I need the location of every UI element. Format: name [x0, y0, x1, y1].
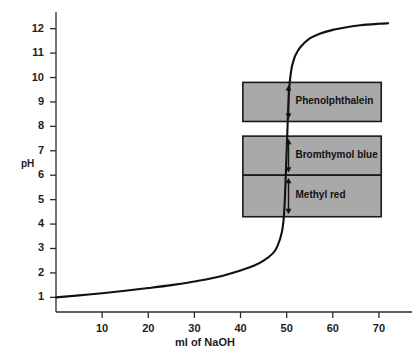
- x-tick-label-50: 50: [267, 322, 307, 334]
- y-tick-label-5: 5: [0, 193, 44, 205]
- y-tick-label-12: 12: [0, 22, 44, 34]
- y-axis-title: pH: [21, 158, 34, 169]
- x-tick-label-20: 20: [128, 322, 168, 334]
- x-tick-label-10: 10: [82, 322, 122, 334]
- x-tick-label-60: 60: [313, 322, 353, 334]
- titration-chart: 123456789101112 10203040506070 Phenolpht…: [0, 0, 416, 360]
- y-tick-label-9: 9: [0, 95, 44, 107]
- y-tick-label-1: 1: [0, 290, 44, 302]
- y-tick-label-6: 6: [0, 168, 44, 180]
- x-axis-title: ml of NaOH: [175, 336, 235, 348]
- y-tick-label-3: 3: [0, 241, 44, 253]
- y-tick-label-8: 8: [0, 119, 44, 131]
- x-tick-label-70: 70: [359, 322, 399, 334]
- x-tick-label-40: 40: [221, 322, 261, 334]
- y-tick-label-10: 10: [0, 71, 44, 83]
- chart-canvas: [0, 0, 416, 360]
- y-tick-label-7: 7: [0, 144, 44, 156]
- bromthymol-blue-band-label: Bromthymol blue: [296, 149, 378, 160]
- y-tick-label-4: 4: [0, 217, 44, 229]
- x-tick-label-30: 30: [174, 322, 214, 334]
- y-tick-label-11: 11: [0, 46, 44, 58]
- methyl-red-band-label: Methyl red: [296, 189, 346, 200]
- phenolphthalein-band-label: Phenolphthalein: [296, 95, 374, 106]
- y-tick-label-2: 2: [0, 266, 44, 278]
